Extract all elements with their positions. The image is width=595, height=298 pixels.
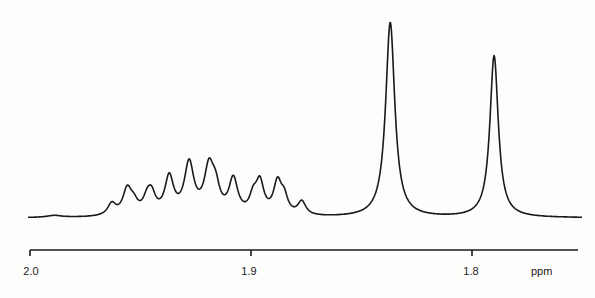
nmr-spectrum-chart	[0, 0, 595, 298]
x-axis-ticks	[30, 250, 472, 256]
x-axis-unit-label: ppm	[531, 265, 552, 277]
spectrum-trace	[28, 23, 582, 218]
tick-label-1-9: 1.9	[241, 265, 256, 277]
tick-label-1-8: 1.8	[463, 265, 478, 277]
tick-label-2-0: 2.0	[23, 265, 38, 277]
